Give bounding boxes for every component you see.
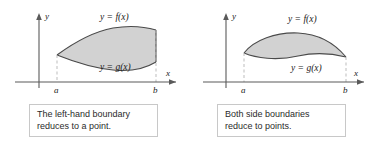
x-axis-arrowhead: [357, 79, 364, 85]
figure-panel-left: y x a b y = f(x) y = g(x) The left-hand …: [0, 0, 188, 143]
x-axis-label: x: [353, 68, 358, 78]
tick-label-a: a: [241, 85, 246, 95]
x-axis-arrowhead: [169, 79, 176, 85]
figure-panel-right: y x a b y = f(x) y = g(x) Both side boun…: [188, 0, 376, 143]
caption-line-2: reduces to a point.: [37, 121, 151, 133]
caption-line-1: Both side boundaries: [225, 109, 339, 121]
caption-box-left: The left-hand boundary reduces to a poin…: [29, 104, 158, 137]
curve-label-g: y = g(x): [290, 63, 322, 74]
y-axis-arrowhead: [223, 13, 229, 20]
curve-label-f: y = f(x): [99, 12, 129, 23]
curve-label-g: y = g(x): [99, 62, 131, 73]
y-axis-arrowhead: [36, 13, 42, 20]
x-axis-label: x: [165, 68, 170, 78]
y-axis-label: y: [231, 11, 236, 21]
figure-pair: y x a b y = f(x) y = g(x) The left-hand …: [0, 0, 376, 143]
tick-label-b: b: [153, 85, 158, 95]
plot-area-right: y x a b y = f(x) y = g(x): [188, 0, 376, 100]
tick-label-b: b: [343, 85, 348, 95]
y-axis-label: y: [44, 11, 49, 21]
caption-line-1: The left-hand boundary: [37, 109, 151, 121]
caption-line-2: reduce to points.: [225, 121, 339, 133]
tick-label-a: a: [54, 85, 59, 95]
caption-box-right: Both side boundaries reduce to points.: [217, 104, 346, 137]
curve-label-f: y = f(x): [287, 14, 317, 25]
plot-area-left: y x a b y = f(x) y = g(x): [0, 0, 188, 100]
